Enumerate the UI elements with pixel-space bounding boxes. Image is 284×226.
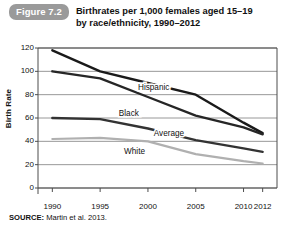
x-axis-tick: 1995 — [91, 203, 109, 211]
source-text: Martin et al. 2013. — [46, 213, 107, 222]
figure-title-line-1: Birthrates per 1,000 females aged 15–19 — [76, 6, 253, 16]
y-axis-tick: 0 — [4, 184, 34, 192]
y-axis-tick: 120 — [4, 44, 34, 52]
x-axis-tick: 2005 — [187, 203, 205, 211]
series-label-black: Black — [119, 109, 140, 118]
source-label: SOURCE: — [9, 213, 44, 222]
y-axis-tick: 100 — [4, 67, 34, 75]
page-title: Birthrates per 1,000 females aged 15–19 … — [76, 4, 278, 30]
figure-title-line-2: by race/ethnicity, 1990–2012 — [76, 17, 278, 29]
x-axis-tick: 2012 — [254, 203, 272, 211]
series-label-hispanic: Hispanic — [138, 83, 169, 92]
figure-number-badge: Figure 7.2 — [9, 4, 69, 20]
figure-container: Figure 7.2 Birthrates per 1,000 females … — [0, 0, 284, 226]
y-axis-tick: 80 — [4, 91, 34, 99]
y-axis-tick: 40 — [4, 137, 34, 145]
x-axis-tick: 1990 — [43, 203, 61, 211]
y-axis-tick-labels: 020406080100120 — [4, 42, 34, 200]
figure-header: Figure 7.2 Birthrates per 1,000 females … — [9, 4, 278, 30]
series-label-average: Average — [154, 129, 185, 138]
line-chart-svg: HispanicHispanicBlackBlackAverageAverage… — [0, 42, 284, 200]
series-label-white: White — [124, 147, 145, 156]
x-axis-tick: 2000 — [139, 203, 157, 211]
source-note: SOURCE: Martin et al. 2013. — [9, 213, 107, 222]
y-axis-tick: 20 — [4, 161, 34, 169]
chart-plot-area: Birth Rate 020406080100120 HispanicHispa… — [0, 42, 284, 200]
series-line-black — [52, 71, 262, 134]
x-axis-tick: 2010 — [235, 203, 253, 211]
y-axis-tick: 60 — [4, 114, 34, 122]
